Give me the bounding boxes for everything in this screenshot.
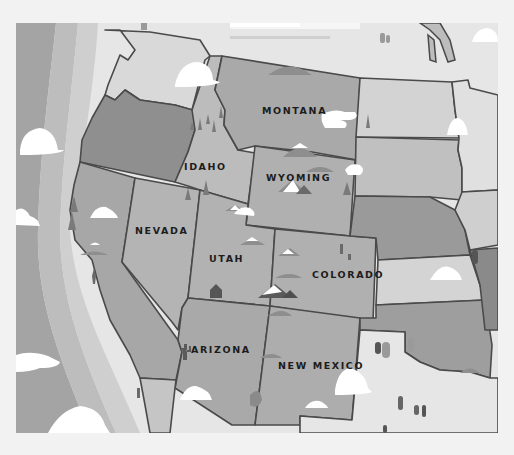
label-montana: MONTANA: [262, 105, 327, 116]
label-idaho: IDAHO: [184, 161, 227, 172]
label-nevada: NEVADA: [135, 225, 188, 236]
state-north-dakota[interactable]: [356, 78, 459, 138]
haze-band-2: [230, 36, 330, 39]
shrub-icon: [472, 250, 478, 264]
label-new-mexico: NEW MEXICO: [278, 360, 364, 371]
label-utah: UTAH: [209, 253, 244, 264]
map-illustration: MONTANA IDAHO WYOMING NEVADA UTAH COLORA…: [16, 23, 498, 433]
state-south-dakota[interactable]: [355, 137, 462, 200]
label-wyoming: WYOMING: [266, 172, 331, 183]
map-svg: MONTANA IDAHO WYOMING NEVADA UTAH COLORA…: [16, 23, 498, 433]
label-arizona: ARIZONA: [191, 344, 251, 355]
label-colorado: COLORADO: [312, 269, 384, 280]
